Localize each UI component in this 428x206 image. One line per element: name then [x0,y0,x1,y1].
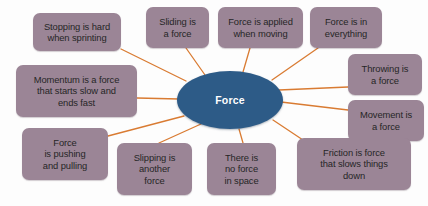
node-momentum-is-a-force-that-starts-slow-and-ends-fast[interactable]: Momentum is a force that starts slow and… [16,65,137,117]
node-movement-is-a-force[interactable]: Movement is a force [348,100,424,141]
node-label: Momentum is a force that starts slow and… [34,74,120,107]
node-friction-is-force-that-slows-things-down[interactable]: Friction is force that slows things down [297,138,411,190]
center-node-force[interactable]: Force [177,71,283,129]
connector-movement-is-a-force [281,102,348,110]
node-throwing-is-a-force[interactable]: Throwing is a force [348,54,422,95]
node-label: Stopping is hard when sprinting [44,21,110,43]
node-label: Force is pushing and pulling [43,137,87,170]
node-force-is-pushing-and-pulling[interactable]: Force is pushing and pulling [22,128,108,180]
connector-there-is-no-force-in-space [239,129,243,143]
node-sliding-is-a-force[interactable]: Sliding is a force [146,7,209,48]
connector-momentum-is-a-force-that-starts-slow-and-ends-fast [137,98,179,99]
node-force-is-in-everything[interactable]: Force is in everything [310,7,382,48]
connector-slipping-is-another-force [159,124,201,143]
node-label: Movement is a force [360,109,412,131]
node-label: Throwing is a force [362,63,409,85]
node-slipping-is-another-force[interactable]: Slipping is another force [117,143,192,195]
node-there-is-no-force-in-space[interactable]: There is no force in space [207,143,276,195]
connector-force-is-applied-when-moving [243,48,250,72]
connector-throwing-is-a-force [279,87,348,90]
node-label: Slipping is another force [134,152,176,185]
center-node-label: Force [215,94,245,106]
mind-map-canvas: Stopping is hard when sprintingSliding i… [0,0,428,206]
node-stopping-is-hard-when-sprinting[interactable]: Stopping is hard when sprinting [33,13,121,51]
node-label: There is no force in space [224,152,258,185]
connector-force-is-pushing-and-pulling [108,116,184,136]
node-label: Force is in everything [325,16,367,38]
node-label: Friction is force that slows things down [320,147,388,180]
connector-force-is-in-everything [272,48,318,80]
connector-friction-is-force-that-slows-things-down [273,120,303,140]
connector-sliding-is-a-force [186,48,205,75]
node-label: Force is applied when moving [228,16,293,38]
node-label: Sliding is a force [159,16,196,38]
node-force-is-applied-when-moving[interactable]: Force is applied when moving [218,7,303,48]
